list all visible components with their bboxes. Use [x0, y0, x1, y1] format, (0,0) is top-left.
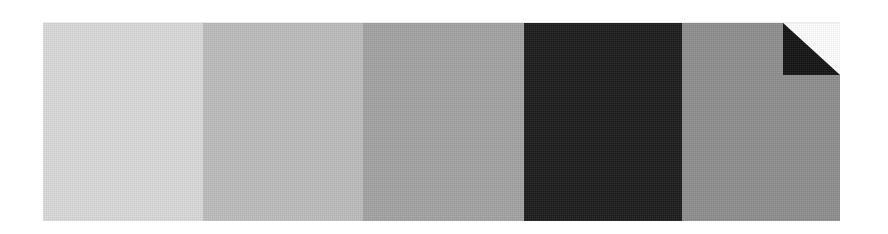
swatch-near-black	[524, 23, 682, 221]
swatch-lightest-gray	[43, 23, 203, 221]
swatch-light-gray	[203, 23, 363, 221]
swatch-mid-gray	[363, 23, 524, 221]
swatch-medium-gray	[682, 23, 840, 221]
gray-swatch-strip	[43, 23, 840, 221]
folded-corner-icon	[783, 23, 840, 75]
